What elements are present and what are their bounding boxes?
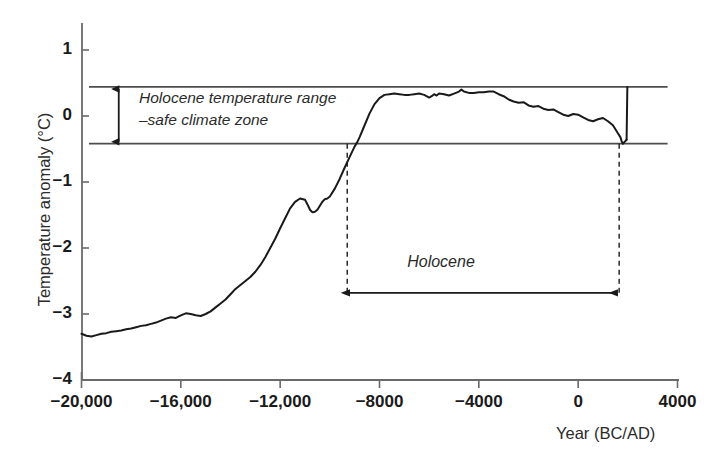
y-axis-title: Temperature anomaly (°C) [35, 80, 54, 340]
series-line [627, 87, 628, 140]
y-tick-label: −4 [20, 369, 72, 389]
x-tick-label: 4000 [618, 392, 712, 412]
y-axis-ticks [82, 50, 89, 314]
chart-container: 10−1−2−3−4 −20,000−16,000−12,000−8000−40… [0, 0, 712, 464]
holocene-span-label: Holocene [407, 253, 475, 271]
y-tick-label: 1 [20, 39, 72, 59]
holocene-range-annotation-line2: –safe climate zone [139, 111, 268, 129]
x-axis-title: Year (BC/AD) [556, 424, 655, 443]
axes-group [82, 23, 680, 388]
holocene-range-annotation-line1: Holocene temperature range [139, 89, 336, 107]
